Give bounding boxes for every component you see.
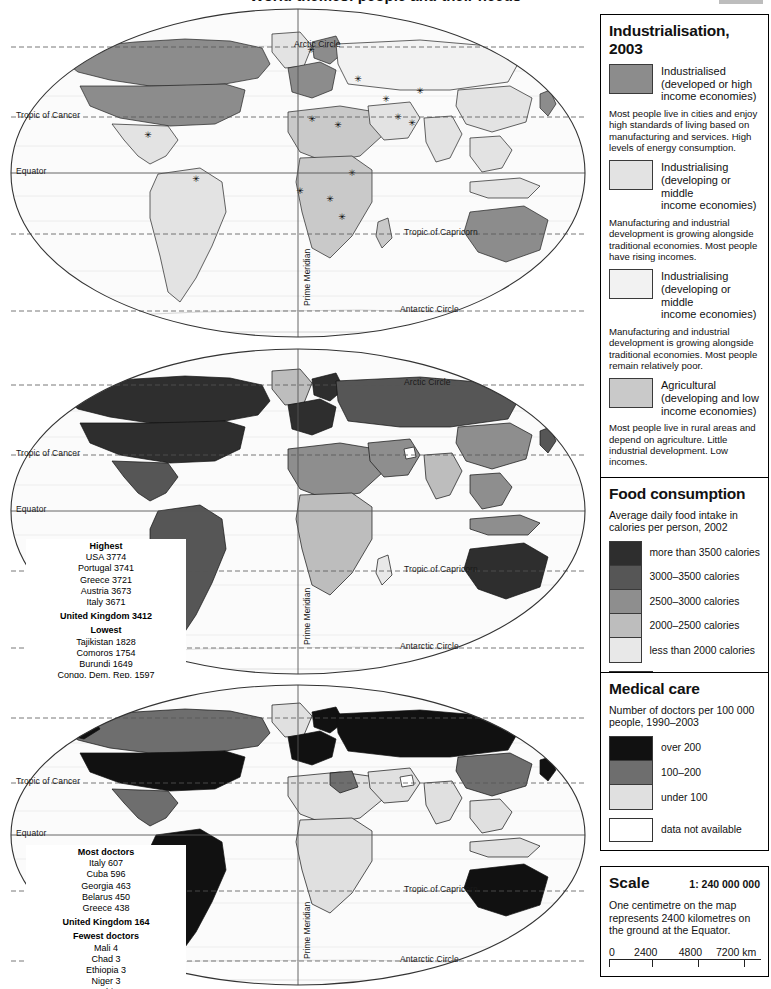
food-highest-3: Austria 3673: [30, 586, 182, 597]
svg-text:✳: ✳: [296, 186, 304, 196]
label-tropic-capricorn-1: Tropic of Capricorn: [404, 227, 478, 237]
label-arctic-circle-2: Arctic Circle: [404, 377, 451, 387]
label-industrialised-l2: (developed or high: [661, 78, 756, 91]
legend-industrialisation: Industrialisation, 2003 Industrialised (…: [600, 14, 769, 512]
scale-header: Scale 1: 240 000 000: [609, 874, 760, 892]
food-ramp-swatches: [609, 541, 642, 663]
label-medical-100-200: 100–200: [661, 761, 707, 785]
label-industrialising-mid-l2: (developing or middle: [661, 174, 760, 199]
world-map-industrialisation-svg: ✳✳ ✳✳ ✳✳ ✳✳ ✳✳ ✳✳ ✳✳: [0, 6, 596, 340]
legend-medical-title: Medical care: [609, 680, 760, 698]
label-food-3000-3500: 3000–3500 calories: [650, 565, 760, 589]
swatch-food-2000-2500: [610, 614, 641, 638]
food-lowest-3: Congo, Dem. Rep. 1597: [30, 670, 182, 678]
scale-tick-2: 4800: [669, 946, 713, 958]
label-arctic-circle-1: Arctic Circle: [294, 39, 341, 49]
swatch-industrialising-poor: [609, 269, 653, 299]
medical-uk-value: United Kingdom 164: [30, 917, 182, 928]
label-agricultural-l1: Agricultural: [661, 379, 759, 392]
medical-ramp-swatches: [609, 736, 653, 810]
medical-fewest-2: Ethiopia 3: [30, 965, 182, 976]
scale-ratio: 1: 240 000 000: [689, 878, 760, 890]
food-ramp-labels: more than 3500 calories 3000–3500 calori…: [650, 541, 760, 663]
svg-text:✳: ✳: [408, 118, 416, 128]
label-agricultural: Agricultural (developing and low income …: [661, 378, 759, 417]
label-equator-2: Equator: [16, 504, 46, 514]
medical-most-4: Greece 438: [30, 903, 182, 914]
map-food-consumption[interactable]: Arctic Circle Tropic of Cancer Equator T…: [0, 345, 596, 678]
label-industrialised-l3: income economies): [661, 90, 756, 103]
svg-text:✳: ✳: [334, 120, 342, 130]
food-lowest-2: Burundi 1649: [30, 659, 182, 670]
scale-bar-tick-2: [698, 959, 699, 967]
label-tropic-cancer-1: Tropic of Cancer: [16, 110, 80, 120]
legend-medical-subtitle: Number of doctors per 100 000 people, 19…: [609, 704, 760, 729]
medical-no-data-row[interactable]: data not available: [609, 818, 760, 842]
medical-fewest-heading: Fewest doctors: [30, 931, 182, 942]
swatch-medical-over200: [610, 737, 652, 761]
medical-ramp-labels: over 200 100–200 under 100: [661, 736, 707, 810]
swatch-food-2500-3000: [610, 590, 641, 614]
map-medical-care[interactable]: Tropic of Cancer Equator Tropic of Capri…: [0, 681, 596, 989]
medical-most-0: Italy 607: [30, 858, 182, 869]
medical-ramp[interactable]: over 200 100–200 under 100: [609, 736, 760, 810]
scale-tick-3: 7200 km: [712, 946, 760, 958]
medical-fewest-1: Chad 3: [30, 954, 182, 965]
svg-text:✳: ✳: [354, 74, 362, 84]
scale-bar-tick-3: [744, 959, 745, 967]
legend-medical-care: Medical care Number of doctors per 100 0…: [600, 672, 769, 851]
label-industrialising-mid-l3: income economies): [661, 199, 760, 212]
legend-scale: Scale 1: 240 000 000 One centimetre on t…: [600, 866, 769, 977]
label-prime-meridian-2: Prime Meridian: [302, 588, 312, 645]
label-industrialising-mid: Industrialising (developing or middle in…: [661, 160, 760, 211]
svg-text:✳: ✳: [144, 130, 152, 140]
legend-class-industrialising-poor[interactable]: Industrialising (developing or middle in…: [609, 269, 760, 320]
factbox-medical: Most doctors Italy 607 Cuba 596 Georgia …: [26, 845, 186, 989]
label-industrialising-mid-l1: Industrialising: [661, 161, 760, 174]
label-antarctic-circle-1: Antarctic Circle: [400, 304, 459, 314]
scale-bar-tick-0: [609, 959, 610, 967]
food-ramp[interactable]: more than 3500 calories 3000–3500 calori…: [609, 541, 760, 663]
scale-tick-labels: 0 2400 4800 7200 km: [609, 946, 760, 958]
scale-description: One centimetre on the map represents 240…: [609, 899, 760, 937]
legend-class-industrialising-mid[interactable]: Industrialising (developing or middle in…: [609, 160, 760, 211]
label-medical-under100: under 100: [661, 786, 707, 810]
svg-text:✳: ✳: [338, 212, 346, 222]
legend-food-title: Food consumption: [609, 485, 760, 503]
label-industrialising-poor-l2: (developing or middle: [661, 283, 760, 308]
label-food-2500-3000: 2500–3000 calories: [650, 590, 760, 614]
label-tropic-cancer-3: Tropic of Cancer: [16, 776, 80, 786]
label-industrialised-l1: Industrialised: [661, 65, 756, 78]
label-medical-no-data: data not available: [661, 824, 742, 835]
swatch-food-3000-3500: [610, 566, 641, 590]
swatch-food-over3500: [610, 542, 641, 566]
label-tropic-cancer-2: Tropic of Cancer: [16, 448, 80, 458]
swatch-industrialised: [609, 64, 653, 94]
legend-class-agricultural[interactable]: Agricultural (developing and low income …: [609, 378, 760, 417]
label-food-under2000: less than 2000 calories: [650, 639, 760, 663]
map-column: ✳✳ ✳✳ ✳✳ ✳✳ ✳✳ ✳✳ ✳✳: [0, 0, 596, 989]
svg-text:✳: ✳: [326, 194, 334, 204]
scale-tick-1: 2400: [623, 946, 669, 958]
legend-food-subtitle: Average daily food intake in calories pe…: [609, 509, 760, 534]
food-highest-heading: Highest: [30, 541, 182, 552]
food-lowest-0: Tajikistan 1828: [30, 637, 182, 648]
desc-industrialised: Most people live in cities and enjoy hig…: [609, 108, 760, 154]
legend-class-industrialised[interactable]: Industrialised (developed or high income…: [609, 64, 760, 103]
food-lowest-heading: Lowest: [30, 625, 182, 636]
map-industrialisation[interactable]: ✳✳ ✳✳ ✳✳ ✳✳ ✳✳ ✳✳ ✳✳: [0, 6, 596, 340]
label-food-2000-2500: 2000–2500 calories: [650, 614, 760, 638]
medical-fewest-0: Mali 4: [30, 943, 182, 954]
scale-bar-tick-1: [652, 959, 653, 967]
svg-text:✳: ✳: [308, 114, 316, 124]
label-industrialised: Industrialised (developed or high income…: [661, 64, 756, 103]
label-industrialising-poor-l3: income economies): [661, 308, 760, 321]
swatch-medical-100-200: [610, 761, 652, 785]
legend-industrialisation-title: Industrialisation, 2003: [609, 22, 760, 58]
label-agricultural-l2: (developing and low: [661, 392, 759, 405]
label-food-over3500: more than 3500 calories: [650, 541, 760, 565]
swatch-agricultural: [609, 378, 653, 408]
scale-bar: [609, 959, 761, 968]
swatch-industrialising-mid: [609, 160, 653, 190]
food-highest-1: Portugal 3741: [30, 563, 182, 574]
